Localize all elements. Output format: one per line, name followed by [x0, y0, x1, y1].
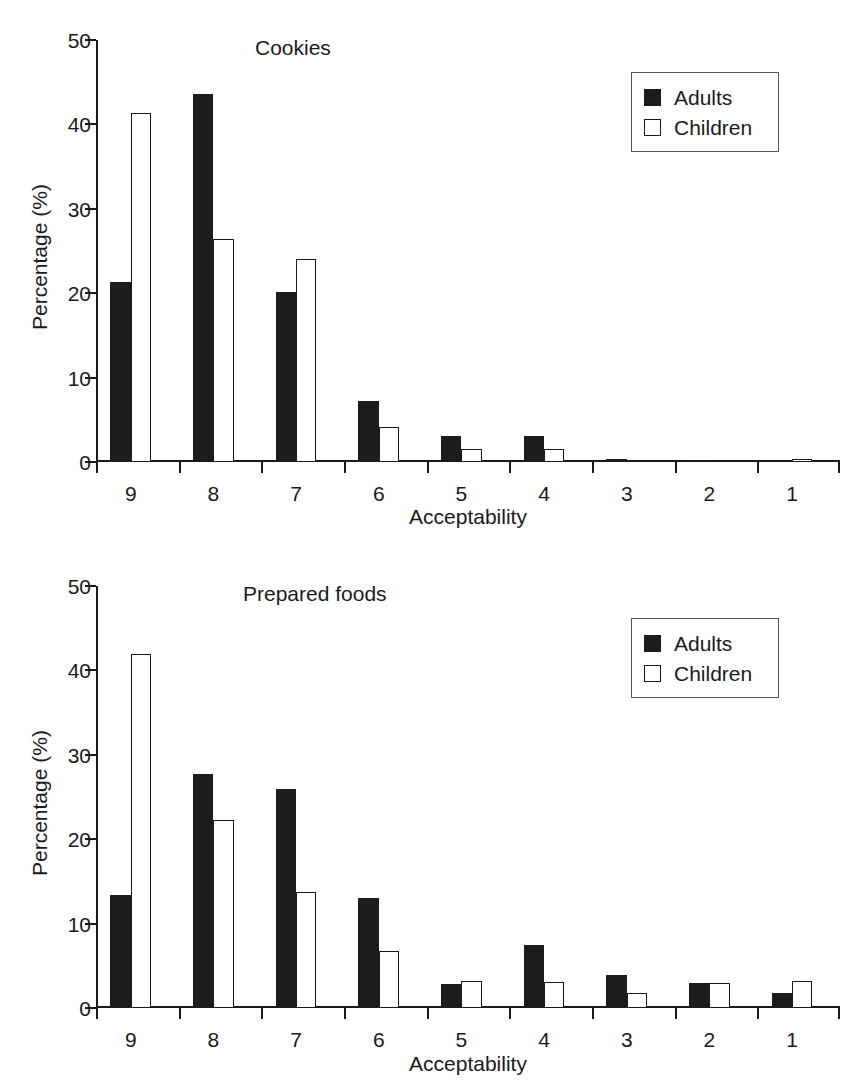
x-tick-mark: [179, 1008, 181, 1019]
y-tick-label: 20: [68, 283, 91, 304]
legend-label-adults: Adults: [674, 633, 732, 654]
legend-entry-children: Children: [644, 658, 764, 688]
chart-panel-prepared-foods: Percentage (%) Prepared foods 0102030405…: [0, 540, 857, 1090]
x-tick-label-3: 3: [621, 483, 633, 504]
x-tick-mark: [675, 462, 677, 473]
x-tick-mark: [261, 462, 263, 473]
y-tick-label: 50: [68, 576, 91, 597]
x-tick-label-5: 5: [456, 1029, 468, 1050]
bar-adults-3: [606, 975, 626, 1008]
legend-entry-adults: Adults: [644, 82, 764, 112]
legend-label-children: Children: [674, 663, 752, 684]
legend-entry-adults: Adults: [644, 628, 764, 658]
x-tick-mark: [344, 1008, 346, 1019]
x-tick-label-8: 8: [208, 1029, 220, 1050]
y-tick-label: 40: [68, 660, 91, 681]
bar-adults-9: [110, 895, 130, 1008]
bar-adults-2: [689, 460, 709, 462]
bar-children-3: [627, 460, 647, 462]
bar-adults-9: [110, 282, 130, 462]
x-tick-label-7: 7: [290, 483, 302, 504]
x-tick-mark: [344, 462, 346, 473]
bar-adults-4: [524, 436, 544, 462]
bar-children-2: [709, 983, 729, 1008]
x-tick-mark: [757, 1008, 759, 1019]
x-tick-label-8: 8: [208, 483, 220, 504]
bar-children-1: [792, 459, 812, 462]
y-tick-label: 20: [68, 829, 91, 850]
y-tick-label: 30: [68, 744, 91, 765]
filled-square-icon: [644, 89, 661, 106]
bar-children-4: [544, 982, 564, 1008]
x-axis-title-cookies: Acceptability: [96, 505, 840, 529]
x-tick-label-5: 5: [456, 483, 468, 504]
x-tick-label-1: 1: [786, 1029, 798, 1050]
bar-children-5: [461, 981, 481, 1008]
x-tick-mark: [838, 1008, 840, 1019]
x-tick-label-9: 9: [125, 1029, 137, 1050]
bar-adults-5: [441, 984, 461, 1008]
open-square-icon: [644, 119, 661, 136]
x-tick-label-7: 7: [290, 1029, 302, 1050]
bar-adults-8: [193, 774, 213, 1008]
x-tick-label-2: 2: [704, 1029, 716, 1050]
bar-adults-4: [524, 945, 544, 1008]
bar-children-3: [627, 993, 647, 1008]
bar-adults-5: [441, 436, 461, 462]
bar-children-6: [379, 427, 399, 462]
x-tick-mark: [592, 1008, 594, 1019]
x-tick-mark: [261, 1008, 263, 1019]
legend-cookies: Adults Children: [631, 72, 779, 152]
y-axis-line: [96, 586, 98, 1008]
y-tick-label: 40: [68, 114, 91, 135]
x-tick-mark: [509, 462, 511, 473]
bar-adults-2: [689, 983, 709, 1008]
bar-adults-3: [606, 459, 626, 462]
x-tick-mark: [675, 1008, 677, 1019]
y-axis-title-cookies: Percentage (%): [28, 184, 52, 330]
y-axis-title-prepared-foods: Percentage (%): [28, 730, 52, 876]
chart-panel-cookies: Percentage (%) Cookies 01020304050987654…: [0, 0, 857, 540]
legend-entry-children: Children: [644, 112, 764, 142]
bar-adults-7: [276, 292, 296, 462]
open-square-icon: [644, 665, 661, 682]
x-tick-mark: [427, 462, 429, 473]
bar-children-5: [461, 449, 481, 462]
legend-prepared-foods: Adults Children: [631, 618, 779, 698]
x-tick-label-4: 4: [538, 1029, 550, 1050]
x-tick-label-4: 4: [538, 483, 550, 504]
x-axis-title-prepared-foods: Acceptability: [96, 1052, 840, 1076]
bar-children-8: [213, 239, 233, 462]
x-tick-mark: [838, 462, 840, 473]
y-tick-label: 0: [79, 998, 91, 1019]
y-axis-line: [96, 40, 98, 462]
y-tick-label: 50: [68, 30, 91, 51]
x-tick-mark: [427, 1008, 429, 1019]
x-tick-mark: [757, 462, 759, 473]
figure-page: Percentage (%) Cookies 01020304050987654…: [0, 0, 857, 1090]
x-tick-label-9: 9: [125, 483, 137, 504]
bar-adults-6: [358, 401, 378, 462]
x-tick-label-2: 2: [704, 483, 716, 504]
bar-children-7: [296, 892, 316, 1008]
legend-label-adults: Adults: [674, 87, 732, 108]
bar-children-9: [131, 113, 151, 462]
bar-adults-6: [358, 898, 378, 1008]
bar-children-6: [379, 951, 399, 1008]
x-tick-label-1: 1: [786, 483, 798, 504]
x-tick-mark: [96, 1008, 98, 1019]
y-tick-label: 10: [68, 913, 91, 934]
bar-adults-8: [193, 94, 213, 462]
bar-children-1: [792, 981, 812, 1008]
y-tick-label: 10: [68, 367, 91, 388]
filled-square-icon: [644, 635, 661, 652]
y-tick-label: 0: [79, 452, 91, 473]
x-tick-label-6: 6: [373, 483, 385, 504]
bar-adults-7: [276, 789, 296, 1008]
x-tick-mark: [96, 462, 98, 473]
x-tick-label-3: 3: [621, 1029, 633, 1050]
bar-adults-1: [772, 993, 792, 1008]
bar-children-7: [296, 259, 316, 462]
legend-label-children: Children: [674, 117, 752, 138]
bar-children-8: [213, 820, 233, 1008]
